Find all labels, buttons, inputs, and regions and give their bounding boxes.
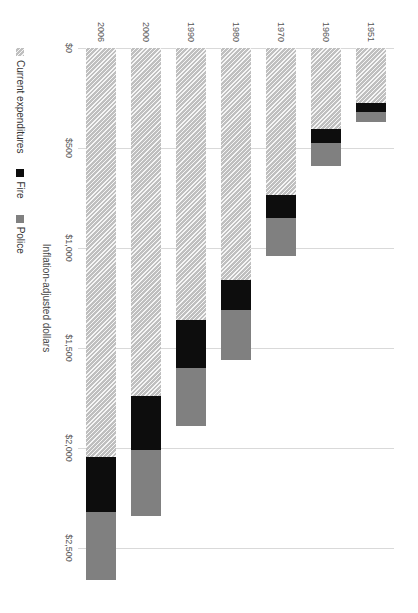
bar-segment-fire[interactable] (356, 103, 386, 112)
bar-segment-police[interactable] (266, 218, 296, 256)
value-axis-title: Inflation-adjusted dollars (41, 48, 52, 548)
bar-segment-current-expenditures[interactable] (266, 48, 296, 195)
value-tick-label: $2,000 (64, 434, 74, 462)
legend-swatch-police-icon (17, 215, 25, 223)
bar-segment-police[interactable] (311, 143, 341, 166)
value-tick-label: $1,500 (64, 334, 74, 362)
bar-row[interactable]: 1960 (311, 48, 341, 166)
bar-segment-police[interactable] (221, 310, 251, 360)
plot-area: 1951196019701980199020002006 (78, 48, 394, 548)
bar-row[interactable]: 1951 (356, 48, 386, 122)
bar-segment-current-expenditures[interactable] (86, 48, 116, 457)
value-tick-label: $2,500 (64, 534, 74, 562)
rotated-chart-wrapper: 1951196019701980199020002006 $0$500$1,00… (0, 0, 418, 613)
bar-row[interactable]: 1970 (266, 48, 296, 256)
category-tick-label: 1980 (231, 22, 241, 42)
legend-swatch-current-icon (17, 48, 25, 56)
bar-row[interactable]: 1980 (221, 48, 251, 360)
bar-segment-fire[interactable] (221, 280, 251, 310)
legend-label: Current expenditures (15, 60, 26, 153)
category-tick-label: 1990 (186, 22, 196, 42)
legend-label: Fire (15, 181, 26, 198)
bar-segment-current-expenditures[interactable] (176, 48, 206, 320)
legend-item[interactable]: Fire (15, 169, 26, 198)
bar-row[interactable]: 2000 (131, 48, 161, 516)
bar-segment-current-expenditures[interactable] (131, 48, 161, 396)
legend-label: Police (15, 227, 26, 254)
bar-segment-current-expenditures[interactable] (221, 48, 251, 280)
bar-segment-current-expenditures[interactable] (311, 48, 341, 129)
bar-segment-fire[interactable] (266, 195, 296, 218)
category-tick-label: 2000 (141, 22, 151, 42)
bar-row[interactable]: 2006 (86, 48, 116, 580)
bar-segment-police[interactable] (176, 368, 206, 426)
bar-segment-police[interactable] (131, 450, 161, 516)
category-tick-label: 2006 (96, 22, 106, 42)
bar-segment-fire[interactable] (86, 457, 116, 512)
legend-swatch-fire-icon (17, 169, 25, 177)
bar-segment-fire[interactable] (131, 396, 161, 450)
bar-chart-figure: 1951196019701980199020002006 $0$500$1,00… (0, 0, 418, 613)
gridline (78, 548, 394, 549)
bar-row[interactable]: 1990 (176, 48, 206, 426)
value-tick-label: $1,000 (64, 234, 74, 262)
gridline (78, 448, 394, 449)
bar-segment-police[interactable] (86, 512, 116, 580)
value-tick-label: $500 (64, 138, 74, 158)
bar-segment-police[interactable] (356, 112, 386, 122)
legend-item[interactable]: Current expenditures (15, 48, 26, 153)
bar-segment-fire[interactable] (176, 320, 206, 368)
bar-segment-fire[interactable] (311, 129, 341, 143)
category-tick-label: 1960 (321, 22, 331, 42)
value-tick-label: $0 (64, 43, 74, 53)
bar-segment-current-expenditures[interactable] (356, 48, 386, 103)
legend-item[interactable]: Police (15, 215, 26, 254)
chart-legend: Current expendituresFirePolice (15, 48, 26, 548)
category-tick-label: 1970 (276, 22, 286, 42)
category-tick-label: 1951 (366, 22, 376, 42)
